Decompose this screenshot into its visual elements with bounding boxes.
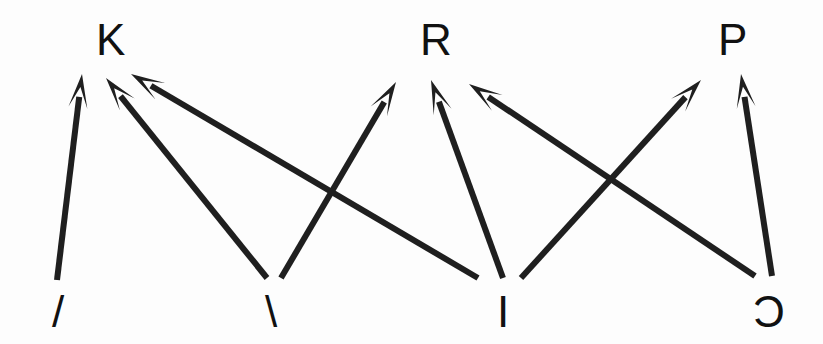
edge-line bbox=[439, 102, 503, 278]
edge-line bbox=[745, 97, 772, 276]
edge-line bbox=[521, 97, 685, 278]
node-label-slash: / bbox=[52, 290, 64, 334]
node-label-r: R bbox=[420, 18, 452, 62]
arrow-head-icon bbox=[131, 74, 165, 99]
edge-group bbox=[57, 74, 772, 280]
edge-line bbox=[151, 86, 478, 278]
node-label-subset: Ɔ bbox=[753, 290, 785, 334]
edge-line bbox=[488, 97, 755, 276]
node-label-p: P bbox=[718, 18, 747, 62]
node-label-bar: I bbox=[497, 290, 509, 334]
edge-line bbox=[57, 97, 79, 280]
edge-line bbox=[281, 102, 384, 278]
edge-line bbox=[120, 96, 267, 278]
node-label-k: K bbox=[96, 18, 125, 62]
node-label-backslash: \ bbox=[265, 290, 277, 334]
arrow-head-icon bbox=[469, 84, 503, 111]
diagram-canvas: K R P / \ I Ɔ bbox=[0, 0, 823, 344]
arrow-head-icon bbox=[371, 82, 396, 116]
